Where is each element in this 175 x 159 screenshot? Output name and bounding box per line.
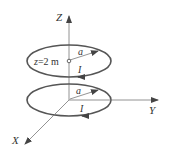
top-loop-radius-label: a (78, 46, 83, 57)
y-axis-label: Y (149, 104, 157, 116)
z-axis-label: Z (56, 11, 63, 23)
bottom-loop-current-label: I (79, 103, 84, 114)
coaxial-loops-diagram: Z z=2 m a I a I Y X (0, 0, 175, 159)
bottom-loop-radius-label: a (76, 85, 81, 96)
diagram-canvas: Z z=2 m a I a I Y X (0, 0, 175, 159)
radius-arrow-icon (70, 90, 98, 99)
top-loop-current-label: I (77, 64, 82, 75)
top-loop-position-label: z=2 m (33, 56, 59, 67)
radius-arrow-icon (70, 51, 98, 60)
x-axis-label: X (11, 134, 20, 146)
